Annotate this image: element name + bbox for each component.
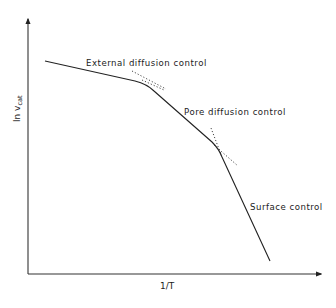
y-axis-label-main: ln v: [12, 105, 22, 122]
label-pore-diffusion: Pore diffusion control: [184, 107, 286, 117]
svg-text:ln vcat: ln vcat: [12, 95, 24, 122]
y-axis-label: ln vcat: [12, 95, 24, 122]
rate-curve: [45, 61, 270, 261]
label-external-diffusion: External diffusion control: [86, 58, 207, 68]
label-surface-control: Surface control: [250, 202, 323, 212]
x-axis-label: 1/T: [160, 281, 175, 291]
regime-diagram: External diffusion control Pore diffusio…: [0, 0, 336, 308]
y-axis-label-sub: cat: [16, 95, 24, 106]
